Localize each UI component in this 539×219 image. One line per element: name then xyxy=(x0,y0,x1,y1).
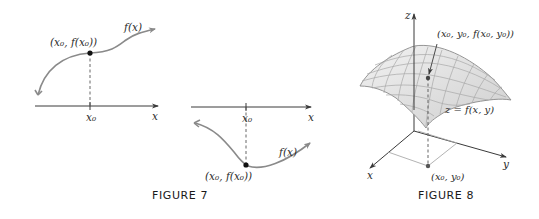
base-point-label: (x₀, y₀) xyxy=(431,171,465,182)
surface xyxy=(360,45,511,128)
point-label: (x₀, f(x₀)) xyxy=(50,36,97,48)
x-axis xyxy=(370,131,414,168)
z-axis-label: z xyxy=(404,9,411,21)
figures-canvas: (x₀, f(x₀)) f(x) x₀ x (x₀, f(x₀)) f(x) x… xyxy=(0,0,539,219)
x0-tick-label: x₀ xyxy=(86,111,97,123)
surface-point xyxy=(426,76,430,80)
base-point xyxy=(426,164,430,168)
figure-7-caption: FIGURE 7 xyxy=(152,189,208,202)
y-axis-label: y xyxy=(502,158,510,170)
figure-7-left-panel: (x₀, f(x₀)) f(x) x₀ x xyxy=(35,21,158,123)
curve-label: f(x) xyxy=(278,146,297,158)
critical-point xyxy=(243,162,248,167)
projection-rectangle xyxy=(388,131,457,166)
figure-8-caption: FIGURE 8 xyxy=(418,189,474,202)
x0-tick-label: x₀ xyxy=(242,112,253,124)
figure-8-panel: (x₀, y₀, f(x₀, y₀)) z = f(x, y) (x₀, y₀)… xyxy=(360,9,514,182)
figure-7-right-panel: (x₀, f(x₀)) f(x) x₀ x xyxy=(191,103,314,182)
x-axis-label: x xyxy=(308,111,314,123)
curve-label: f(x) xyxy=(123,21,142,33)
x-axis-label: x xyxy=(367,169,373,181)
surface-label: z = f(x, y) xyxy=(444,104,494,115)
point-label: (x₀, f(x₀)) xyxy=(205,170,252,182)
x-axis-label: x xyxy=(152,110,158,122)
surface-point-label: (x₀, y₀, f(x₀, y₀)) xyxy=(437,28,514,39)
critical-point xyxy=(87,50,92,55)
